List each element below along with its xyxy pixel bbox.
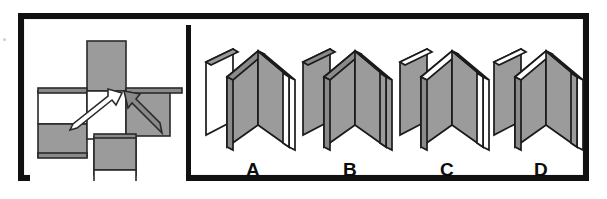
option-b[interactable]: B xyxy=(300,39,400,157)
net-rail-lower-top xyxy=(94,134,136,138)
option-a-label: A xyxy=(203,159,303,181)
option-c-label: C xyxy=(397,159,497,181)
option-d-label: D xyxy=(491,159,591,181)
option-b-label: B xyxy=(300,159,400,181)
panel-far-right-face xyxy=(386,77,392,150)
option-a-figure xyxy=(203,39,303,157)
panel-far-right-side xyxy=(571,73,577,147)
net-cell-lower-white xyxy=(94,170,136,181)
panel-inner-left-edge xyxy=(515,77,521,150)
option-d-figure xyxy=(491,39,591,157)
panel-far-right-face xyxy=(289,77,295,150)
option-c-figure xyxy=(397,39,497,157)
option-b-figure xyxy=(300,39,400,157)
net-cell-top xyxy=(87,41,126,91)
net-cell-left-lower xyxy=(38,124,87,157)
panel-far-right-side xyxy=(283,73,289,147)
panel-inner-left-edge xyxy=(421,77,427,150)
item-canvas: A xyxy=(0,0,607,199)
scan-speckle xyxy=(3,38,6,41)
net-cell-lower-gray xyxy=(94,137,136,170)
item-frame: A xyxy=(18,13,589,181)
panel-inner-left-edge xyxy=(324,77,330,150)
panel-far-right-face xyxy=(577,77,583,150)
option-a[interactable]: A xyxy=(203,39,303,157)
panel-inner-left-edge xyxy=(227,77,233,150)
unfolded-net xyxy=(30,25,186,181)
net-rail-left-bottom xyxy=(38,153,87,158)
stimulus-panel xyxy=(30,25,191,181)
panel-far-right-side xyxy=(380,73,386,147)
panel-far-right-side xyxy=(477,73,483,147)
net-diagram xyxy=(30,25,186,181)
panel-far-right-face xyxy=(483,77,489,150)
option-d[interactable]: D xyxy=(491,39,591,157)
option-c[interactable]: C xyxy=(397,39,497,157)
options-panel: A xyxy=(191,25,577,169)
net-rail-left-top xyxy=(38,88,87,93)
